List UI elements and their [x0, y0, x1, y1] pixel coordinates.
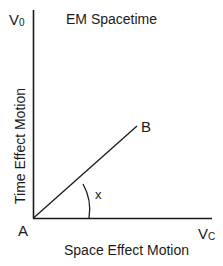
- x-axis-title: Space Effect Motion: [64, 243, 189, 257]
- y-axis-title: Time Effect Motion: [12, 88, 28, 204]
- vector-ab: [34, 126, 138, 218]
- x-axis-end-label: VC: [198, 226, 215, 242]
- diagram-title: EM Spacetime: [66, 12, 157, 26]
- y-axis-end-subscript: 0: [19, 17, 25, 28]
- point-b-label: B: [141, 119, 151, 134]
- angle-arc: [83, 184, 90, 218]
- y-axis-end-symbol: V: [9, 11, 19, 28]
- point-a-label: A: [18, 223, 28, 238]
- angle-label: x: [95, 188, 102, 201]
- diagram-canvas: [0, 0, 223, 266]
- x-axis-end-symbol: V: [198, 225, 208, 242]
- em-spacetime-diagram: EM Spacetime V0 VC A B x Space Effect Mo…: [0, 0, 223, 266]
- y-axis-end-label: V0: [9, 12, 25, 28]
- x-axis-end-subscript: C: [208, 231, 215, 242]
